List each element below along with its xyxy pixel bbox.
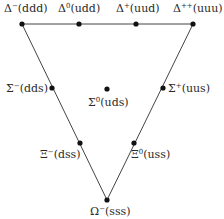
delta-minus-node — [19, 21, 24, 26]
particle-symbol: Ω — [90, 205, 99, 218]
delta-zero-label: Δ0(udd) — [58, 2, 100, 15]
delta-plus-node — [133, 21, 138, 26]
xi-zero-label: Ξ0(uss) — [131, 148, 170, 161]
particle-quarks: (dds) — [20, 82, 48, 95]
particle-quarks: (uds) — [100, 96, 128, 109]
sigma-plus-label: Σ+(uus) — [168, 82, 210, 95]
xi-minus-label: Ξ−(dss) — [40, 148, 81, 161]
particle-nodes — [19, 21, 195, 202]
particle-quarks: (uus) — [182, 82, 210, 95]
particle-quarks: (udd) — [70, 2, 100, 15]
particle-quarks: (uuu) — [193, 2, 223, 15]
sigma-zero-label: Σ0(uds) — [88, 96, 129, 109]
particle-quarks: (ddd) — [18, 2, 48, 15]
delta-plus-plus-node — [190, 21, 195, 26]
delta-zero-node — [76, 21, 81, 26]
particle-labels: Δ−(ddd)Δ0(udd)Δ+(uud)Δ++(uuu)Σ−(dds)Σ0(u… — [4, 2, 223, 218]
particle-symbol: Δ — [58, 2, 66, 15]
particle-quarks: (uss) — [143, 148, 170, 161]
xi-minus-node — [77, 140, 82, 145]
sigma-minus-node — [49, 85, 54, 90]
particle-quarks: (dss) — [54, 148, 81, 161]
delta-plus-plus-label: Δ++(uuu) — [173, 2, 223, 15]
omega-minus-node — [104, 197, 109, 202]
baryon-decuplet-diagram: Δ−(ddd)Δ0(udd)Δ+(uud)Δ++(uuu)Σ−(dds)Σ0(u… — [0, 0, 224, 219]
sigma-zero-node — [104, 86, 109, 91]
particle-quarks: (sss) — [105, 205, 131, 218]
sigma-plus-node — [160, 85, 165, 90]
delta-minus-label: Δ−(ddd) — [4, 2, 48, 15]
sigma-minus-label: Σ−(dds) — [6, 82, 48, 95]
particle-symbol: Δ — [4, 2, 12, 15]
xi-zero-node — [131, 140, 136, 145]
particle-charge: ++ — [181, 2, 193, 10]
particle-symbol: Δ — [116, 2, 124, 15]
particle-quarks: (uud) — [130, 2, 160, 15]
particle-symbol: Δ — [173, 2, 181, 15]
omega-minus-label: Ω−(sss) — [90, 205, 131, 218]
triangle-outline — [22, 24, 193, 200]
delta-plus-label: Δ+(uud) — [116, 2, 160, 15]
